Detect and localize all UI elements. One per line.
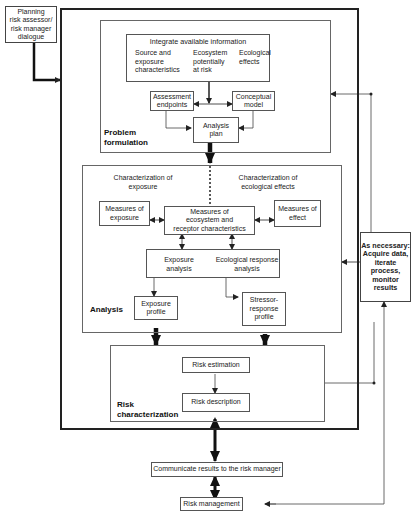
char-eff-2: ecological effects: [228, 183, 308, 192]
char-exp-1: Characterization of: [108, 174, 178, 183]
effects-line-1: Ecological: [239, 49, 271, 58]
planning-line-3: risk manager: [11, 25, 51, 34]
analysis-inner-box: Exposure analysis Ecological response an…: [146, 249, 280, 278]
mexp-2: exposure: [110, 214, 139, 223]
conceptual-model-box: Conceptual model: [232, 91, 275, 111]
analysis-label: Analysis: [90, 305, 123, 315]
expprof-2: profile: [146, 308, 165, 317]
char-effects-label: Characterization of ecological effects: [228, 174, 308, 191]
risk-management-text: Risk management: [183, 500, 239, 509]
source-line-2: exposure: [135, 58, 180, 67]
risk-management-box: Risk management: [180, 497, 243, 511]
stressor-response-profile-box: Stressor- response profile: [242, 292, 286, 326]
expan-1: Exposure: [157, 256, 201, 265]
source-line-1: Source and: [135, 49, 180, 58]
expan-2: analysis: [157, 265, 201, 274]
meff-1: Measures of: [278, 205, 317, 214]
pf-label-2: formulation: [104, 138, 148, 148]
measures-exposure-box: Measures of exposure: [99, 201, 150, 226]
planning-dialogue-box: Planning risk assessor/ risk manager dia…: [5, 6, 57, 43]
plan-line-2: plan: [209, 130, 222, 139]
communicate-text: Communicate results to the risk manager: [153, 465, 281, 474]
meco-2: ecosystem and: [186, 216, 233, 225]
planning-line-4: dialogue: [18, 33, 44, 42]
char-exposure-label: Characterization of exposure: [108, 174, 178, 191]
planning-line-2: risk assessor/: [10, 16, 53, 25]
analysis-plan-box: Analysis plan: [193, 117, 239, 143]
asnec-5: monitor results: [361, 276, 410, 293]
integrate-title: Integrate available information: [127, 38, 269, 47]
risk-estimation-text: Risk estimation: [192, 361, 239, 370]
plan-line-1: Analysis: [203, 122, 229, 131]
char-eff-1: Characterization of: [228, 174, 308, 183]
as-necessary-box: As necessary: Acquire data, iterate proc…: [360, 232, 411, 302]
srp-3: profile: [254, 313, 273, 322]
effects-line-2: effects: [239, 58, 271, 67]
meco-3: receptor characteristics: [173, 225, 245, 234]
ecoresp-1: Ecological response: [215, 256, 279, 265]
risk-description-text: Risk description: [191, 398, 240, 407]
exposure-profile-box: Exposure profile: [134, 296, 178, 320]
srp-1: Stressor-: [250, 296, 278, 305]
model-line-2: model: [244, 101, 263, 110]
ecosystem-line-2: potentially: [193, 58, 227, 67]
ecoresp-2: analysis: [215, 265, 279, 274]
expprof-1: Exposure: [141, 300, 171, 309]
srp-2: response: [250, 305, 279, 314]
planning-line-1: Planning: [17, 8, 44, 17]
risk-characterization-label: Risk characterization: [117, 400, 178, 420]
risk-estimation-box: Risk estimation: [182, 357, 250, 373]
endpoints-line-2: endpoints: [157, 101, 187, 110]
risk-description-box: Risk description: [182, 393, 250, 412]
ecosystem-line-1: Ecosystem: [193, 49, 227, 58]
meco-1: Measures of: [190, 208, 229, 217]
problem-formulation-label: Problem formulation: [104, 128, 148, 148]
ecosystem-line-3: at risk: [193, 66, 227, 75]
pf-label-1: Problem: [104, 128, 148, 138]
model-line-1: Conceptual: [236, 93, 271, 102]
measures-effect-box: Measures of effect: [274, 200, 321, 227]
communicate-results-box: Communicate results to the risk manager: [151, 462, 283, 477]
rc-label-1: Risk: [117, 400, 178, 410]
rc-label-2: characterization: [117, 410, 178, 420]
mexp-1: Measures of: [105, 205, 144, 214]
assessment-endpoints-box: Assessment endpoints: [150, 91, 194, 111]
char-exp-2: exposure: [108, 183, 178, 192]
source-line-3: characteristics: [135, 66, 180, 75]
integrate-info-box: Integrate available information Source a…: [126, 34, 270, 82]
measures-ecosystem-box: Measures of ecosystem and receptor chara…: [164, 206, 255, 235]
meff-2: effect: [289, 214, 306, 223]
endpoints-line-1: Assessment: [153, 93, 191, 102]
